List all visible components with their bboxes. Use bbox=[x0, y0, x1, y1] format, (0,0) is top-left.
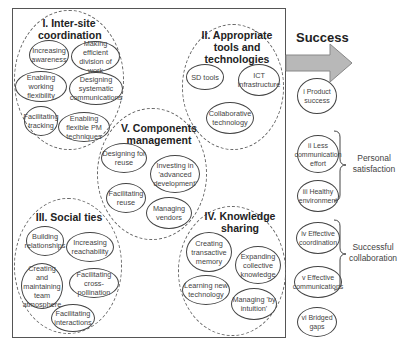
outcome-effective-coordination: iv Effective coordination bbox=[296, 222, 340, 254]
outcome-product-success: i Product success bbox=[297, 78, 337, 114]
connectors-overlay bbox=[0, 0, 402, 346]
outcome-bridged-gaps: vi Bridged gaps bbox=[297, 307, 337, 337]
outcome-less-communication-effort: ii Less communication effort bbox=[297, 135, 339, 173]
label-personal-satisfaction: Personal satisfaction bbox=[346, 153, 402, 175]
outcome-healthy-environment: iii Healthy environment bbox=[297, 180, 339, 212]
success-arrow bbox=[286, 44, 352, 82]
label-successful-collaboration: Successful collaboration bbox=[344, 242, 402, 264]
outcome-effective-communications: v Effective communications bbox=[294, 266, 342, 298]
